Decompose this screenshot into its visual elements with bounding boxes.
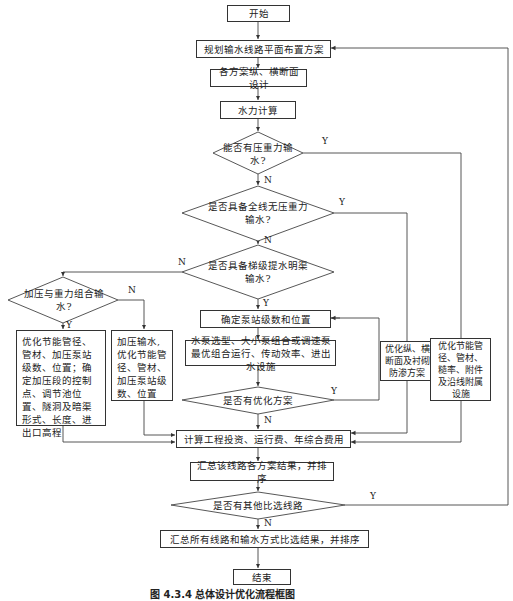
edge-label-yes: Y [66, 320, 72, 330]
edge-label-yes: Y [339, 197, 345, 207]
start-node: 开始 [227, 5, 290, 22]
edge-label-no: N [128, 285, 136, 295]
plan-layout-node: 规划输水线路平面布置方案 [196, 40, 331, 58]
decision-cascade-canal: 是否具备梯级提水明渠输水? [205, 258, 311, 286]
edge-label-no: N [264, 518, 272, 528]
decision-pressure-gravity: 能否有压重力输水? [218, 140, 298, 168]
section-design-node: 各方案纵、横断面设计 [210, 69, 307, 87]
pump-selection-node: 水泵选型、大小泵组合或调速泵最优组合运行、传动效率、进出水设施 [185, 340, 336, 366]
section-optimization-box: 优化纵、横断面及衬砌防渗方案 [380, 341, 434, 381]
summary-line-node: 汇总该线路各方案结果，并排序 [190, 462, 334, 481]
hydraulic-calc-node: 水力计算 [220, 101, 296, 119]
edge-label-yes: Y [331, 386, 337, 396]
decision-combined: 加压与重力组合输水? [24, 286, 104, 314]
edge-label-no: N [264, 415, 272, 425]
edge-label-no: N [264, 175, 272, 185]
figure-caption: 图 4.3.4 总体设计优化流程框图 [150, 586, 295, 601]
edge-label-no: N [178, 257, 186, 267]
pump-station-node: 确定泵站级数和位置 [200, 310, 331, 328]
pipe-optimization-box: 优化节能管径、管材、糙率、附件及沿线附属设施 [430, 338, 491, 401]
edge-label-yes: Y [370, 491, 376, 501]
edge-label-no: N [264, 235, 272, 245]
combined-optimization-box: 优化节能管径、管材、加压泵站级数、位置；确定加压段的控制点、调节池位置、隧洞及暗… [16, 330, 106, 426]
cost-calc-node: 计算工程投资、运行费、年综合费用 [176, 430, 351, 448]
decision-full-gravity: 是否具备全线无压重力输水? [205, 199, 311, 227]
pressure-optimization-box: 加压输水,优化节能管径、管材、加压泵站级数、位置 [111, 330, 173, 401]
decision-optimize: 是否有优化方案 [205, 393, 311, 407]
edge-label-yes: Y [263, 298, 269, 308]
edge-label-yes: Y [322, 136, 328, 146]
summary-all-node: 汇总所有线路和输水方式比选结果，并排序 [160, 530, 369, 548]
end-node: 结束 [233, 569, 291, 585]
decision-other-route: 是否有其他比选线路 [195, 498, 321, 512]
